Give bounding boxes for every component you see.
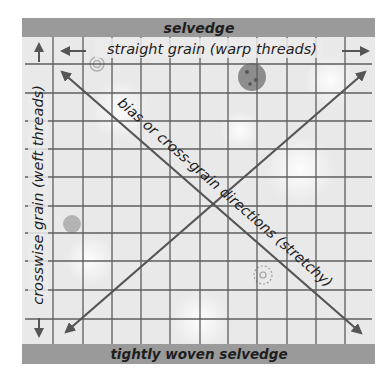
dot-icon [63, 215, 81, 233]
straight-grain-label: straight grain (warp threads) [107, 41, 317, 57]
ladybug-icon [238, 63, 266, 91]
crosswise-grain-label: crosswise grain (weft threads) [30, 85, 46, 305]
top-selvedge-label: selvedge [164, 20, 235, 36]
bottom-selvedge-label: tightly woven selvedge [110, 346, 287, 362]
fabric-grain-diagram: selvedge tightly woven selvedge straight… [0, 0, 390, 381]
